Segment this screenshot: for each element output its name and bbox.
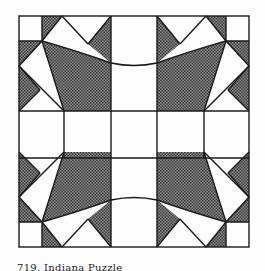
quadrant-bottom-right — [157, 152, 249, 247]
quadrant-bottom-left — [19, 152, 111, 247]
quadrant-top-right — [157, 16, 249, 111]
quadrant-top-left — [19, 16, 111, 111]
quilt-block-diagram — [0, 0, 265, 271]
figure-caption: 719. Indiana Puzzle — [17, 262, 123, 271]
